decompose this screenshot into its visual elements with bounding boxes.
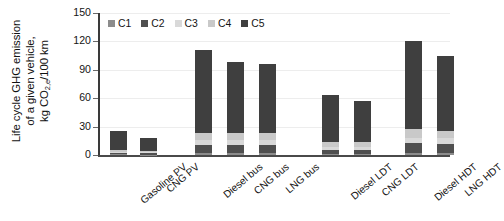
bar-segment-c2 — [259, 145, 276, 153]
bar-segment-c1 — [227, 153, 244, 155]
bar-segment-c5 — [354, 101, 371, 142]
bar-segment-c5 — [140, 138, 157, 151]
legend-label: C2 — [151, 18, 164, 29]
bar-diesel-hdt[interactable] — [405, 41, 422, 156]
bar-lng-bus[interactable] — [259, 64, 276, 155]
legend-label: C5 — [251, 18, 264, 29]
legend-label: C4 — [218, 18, 231, 29]
bar-segment-c1 — [259, 153, 276, 155]
legend-swatch-c1 — [108, 20, 115, 27]
y-axis-tick-label: 90 — [58, 63, 91, 75]
legend-label: C3 — [185, 18, 198, 29]
bar-segment-c1 — [437, 153, 454, 155]
bar-segment-c2 — [195, 145, 212, 153]
legend-item-c1[interactable]: C1 — [108, 18, 131, 29]
bar-segment-c5 — [227, 62, 244, 132]
chart-legend: C1C2C3C4C5 — [108, 18, 264, 29]
bar-segment-c5 — [437, 56, 454, 131]
bar-segment-c5 — [110, 131, 127, 150]
bar-segment-c1 — [195, 153, 212, 155]
bar-segment-c1 — [322, 154, 339, 155]
legend-swatch-c3 — [175, 20, 182, 27]
y-axis-title-text: Life cycle GHG emission of a given vehic… — [0, 2, 62, 160]
bar-segment-c1 — [405, 153, 422, 155]
bar-cng-ldt[interactable] — [354, 101, 371, 155]
y-axis-tick-label: 120 — [58, 34, 91, 46]
bar-gasoline-pv[interactable] — [110, 131, 127, 155]
legend-swatch-c2 — [141, 20, 148, 27]
legend-item-c2[interactable]: C2 — [141, 18, 164, 29]
y-axis-title-line-3: kg CO2,e/100 km — [37, 20, 53, 142]
bar-cng-pv[interactable] — [140, 138, 157, 155]
y-axis-title-line-2: of a given vehicle, — [23, 20, 37, 142]
bar-segment-c2 — [405, 143, 422, 152]
bar-segment-c5 — [259, 64, 276, 133]
bar-diesel-ldt[interactable] — [322, 95, 339, 155]
legend-swatch-c5 — [241, 20, 248, 27]
y-axis-tick-label: 30 — [58, 120, 91, 132]
bar-segment-c5 — [405, 41, 422, 130]
legend-item-c5[interactable]: C5 — [241, 18, 264, 29]
bar-segment-c2 — [437, 144, 454, 153]
y-axis-title: Life cycle GHG emission of a given vehic… — [0, 0, 62, 162]
bar-segment-c5 — [195, 50, 212, 133]
bar-segment-c4 — [437, 131, 454, 138]
bar-segment-c5 — [322, 95, 339, 142]
y-axis-tick-label: 150 — [58, 6, 91, 18]
bar-segment-c4 — [227, 133, 244, 140]
y-axis-tick-label: 0 — [58, 148, 91, 160]
legend-item-c4[interactable]: C4 — [208, 18, 231, 29]
co2-subscript: 2,e — [43, 80, 52, 90]
plot-area — [98, 13, 450, 155]
y-axis-tick-label: 60 — [58, 91, 91, 103]
bar-segment-c2 — [227, 145, 244, 153]
bar-segment-c1 — [354, 154, 371, 155]
y-axis-title-line-1: Life cycle GHG emission — [9, 20, 23, 142]
x-axis-tick-label-lng-bus[interactable]: LNG bus — [283, 161, 321, 195]
bar-diesel-bus[interactable] — [195, 50, 212, 155]
bar-segment-c4 — [405, 129, 422, 138]
legend-swatch-c4 — [208, 20, 215, 27]
bar-lng-hdt[interactable] — [437, 56, 454, 155]
legend-label: C1 — [118, 18, 131, 29]
bar-segment-c1 — [110, 154, 127, 155]
bar-segment-c4 — [259, 133, 276, 140]
bar-segment-c4 — [195, 133, 212, 141]
bar-cng-bus[interactable] — [227, 62, 244, 155]
legend-item-c3[interactable]: C3 — [175, 18, 198, 29]
